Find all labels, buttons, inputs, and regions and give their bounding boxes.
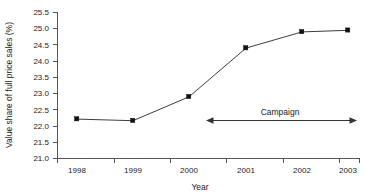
data-point-2000 bbox=[187, 94, 191, 98]
x-tick-label-1: 1999 bbox=[124, 166, 142, 175]
x-axis-tick-labels: 1998 1999 2000 2001 2002 2003 bbox=[68, 166, 357, 175]
x-axis-ticks bbox=[58, 159, 360, 164]
y-tick-label-0: 21.0 bbox=[33, 154, 49, 163]
x-tick-label-4: 2002 bbox=[293, 166, 311, 175]
series-line-value-share bbox=[77, 30, 348, 120]
series-markers bbox=[75, 28, 350, 123]
y-axis-tick-labels: 21.0 21.5 22.0 22.5 23.0 23.5 24.0 24.5 … bbox=[33, 8, 49, 163]
y-tick-label-2: 22.0 bbox=[33, 122, 49, 131]
x-axis-title: Year bbox=[191, 182, 208, 192]
x-tick-label-0: 1998 bbox=[68, 166, 86, 175]
x-tick-label-5: 2003 bbox=[339, 166, 357, 175]
campaign-arrow-head-left-icon bbox=[206, 117, 214, 124]
data-point-1998 bbox=[75, 117, 79, 121]
y-tick-label-1: 21.5 bbox=[33, 138, 49, 147]
data-point-2003 bbox=[346, 28, 350, 32]
y-tick-label-3: 22.5 bbox=[33, 106, 49, 115]
data-point-2001 bbox=[244, 46, 248, 50]
y-tick-label-6: 24.0 bbox=[33, 57, 49, 66]
x-tick-label-3: 2001 bbox=[237, 166, 255, 175]
campaign-arrow-head-right-icon bbox=[350, 117, 358, 124]
y-tick-label-8: 25.0 bbox=[33, 24, 49, 33]
x-tick-label-2: 2000 bbox=[180, 166, 198, 175]
chart-container: 21.0 21.5 22.0 22.5 23.0 23.5 24.0 24.5 … bbox=[0, 0, 365, 195]
y-tick-label-9: 25.5 bbox=[33, 8, 49, 17]
line-chart: 21.0 21.5 22.0 22.5 23.0 23.5 24.0 24.5 … bbox=[0, 0, 365, 195]
campaign-annotation-label: Campaign bbox=[261, 107, 300, 117]
y-axis-title: Value share of full price sales (%) bbox=[4, 22, 14, 148]
y-tick-label-4: 23.0 bbox=[33, 89, 49, 98]
campaign-annotation: Campaign bbox=[206, 107, 357, 124]
y-tick-label-5: 23.5 bbox=[33, 73, 49, 82]
data-point-2002 bbox=[300, 30, 304, 34]
data-point-1999 bbox=[131, 118, 135, 122]
y-tick-label-7: 24.5 bbox=[33, 41, 49, 50]
y-axis-ticks bbox=[53, 12, 58, 158]
